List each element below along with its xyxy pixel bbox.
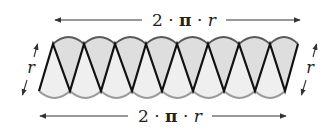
left-height-dimension: r [23,44,38,95]
right-height-dimension: r [302,44,317,95]
bottom-dimension: 2 · π · r [40,106,286,126]
sectors-group [39,37,298,98]
right-arrow-up [313,44,317,57]
sector-parallelogram-diagram: 2 · π · r 2 · π · r r r [0,0,323,129]
top-dimension: 2 · π · r [55,10,300,30]
left-arrow-down [23,80,28,95]
bottom-length-label: 2 · π · r [138,106,203,126]
left-arrow-up [34,44,38,57]
top-length-label: 2 · π · r [152,10,217,30]
left-radius-label: r [27,58,36,77]
right-radius-label: r [306,58,315,77]
right-arrow-down [302,80,307,95]
